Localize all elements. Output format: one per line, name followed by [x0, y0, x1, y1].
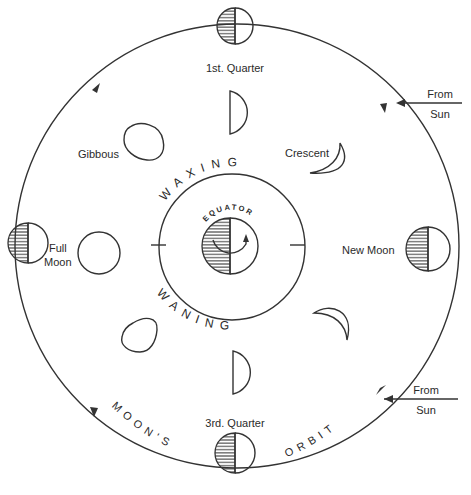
new-moon-label: New Moon: [342, 244, 395, 256]
svg-text:From: From: [427, 88, 453, 100]
svg-text:Sun: Sun: [430, 108, 450, 120]
gibbous-upper-shape: [124, 124, 164, 160]
svg-text:Sun: Sun: [416, 404, 436, 416]
third-quarter-half-disc: [233, 351, 250, 394]
first-quarter-half-disc: [230, 91, 247, 134]
arrow-icon: [90, 407, 98, 417]
arrow-icon: [396, 99, 405, 107]
full-moon-disc: [78, 232, 120, 274]
full-moon-label: Full Moon: [44, 242, 72, 268]
svg-text:From: From: [413, 384, 439, 396]
gibbous-lower-shape: [122, 318, 157, 352]
moon-top: [217, 8, 253, 44]
gibbous-label: Gibbous: [78, 148, 119, 160]
crescent-lower-shape: [314, 308, 349, 340]
orbit-label-moons: MOON'S: [110, 399, 176, 450]
arrow-icon: [384, 395, 393, 403]
arrow-icon: [243, 234, 249, 242]
moon-left: [8, 223, 48, 263]
arrow-icon: [92, 83, 100, 93]
moon-right: [406, 227, 450, 271]
moon-phases-diagram: EQUATOR WAXING WANING MOON'S ORBIT 1st. …: [0, 0, 471, 495]
moon-bottom: [215, 433, 255, 473]
earth: [202, 218, 258, 274]
third-quarter-label: 3rd. Quarter: [205, 417, 265, 429]
inner-circle: [159, 174, 305, 320]
waxing-label: WAXING: [157, 155, 245, 203]
arrow-icon: [376, 385, 386, 395]
sun-direction-top: From Sun: [396, 88, 462, 120]
sun-direction-bottom: From Sun: [384, 384, 458, 416]
orbit-label-orbit: ORBIT: [283, 420, 339, 460]
crescent-label: Crescent: [285, 147, 329, 159]
first-quarter-label: 1st. Quarter: [206, 62, 264, 74]
arrow-icon: [380, 103, 387, 113]
